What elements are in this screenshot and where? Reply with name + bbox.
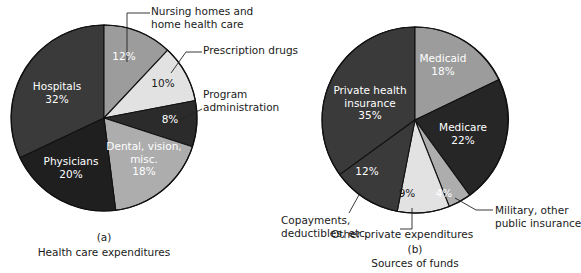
slice-label-other-private-pct: 9%: [399, 187, 416, 200]
panel-label-a: (a): [97, 231, 112, 244]
slice-label-physicians-pct: 20%: [59, 168, 82, 180]
callout-nursing-homes-line1: Nursing homes and: [151, 5, 253, 17]
callout-prescription-drugs: Prescription drugs: [203, 44, 298, 57]
panel-label-b-text: (b): [408, 243, 423, 255]
caption-b-text: Sources of funds: [371, 257, 458, 269]
leader-copayments: [349, 193, 360, 213]
slice-label-military-pct: 4%: [436, 187, 453, 200]
slice-label-nursing-pct: 12%: [112, 50, 135, 62]
slice-label-dental-vision-misc: Dental, vision, misc. 18%: [106, 140, 181, 178]
caption-b: Sources of funds: [371, 257, 458, 270]
slice-label-prescription-pct-text: 10%: [151, 77, 174, 89]
callout-prescription-drugs-text: Prescription drugs: [203, 44, 298, 56]
callout-military-line1: Military, other: [495, 204, 569, 216]
callout-copayments-deductibles: Copayments, deductibles, etc.: [281, 214, 368, 239]
slice-label-medicare-pct: 22%: [451, 134, 474, 146]
slice-label-prescription-pct: 10%: [151, 77, 174, 90]
slice-label-private-health-insurance: Private health insurance 35%: [333, 84, 406, 122]
callout-military-line2: public insurance: [495, 217, 581, 229]
slice-label-copayments-pct: 12%: [355, 165, 378, 178]
slice-label-physicians: Physicians 20%: [44, 155, 99, 180]
callout-program-administration-line1: Program: [203, 88, 247, 100]
slice-label-private-pct: 35%: [358, 109, 381, 121]
caption-a: Health care expenditures: [38, 246, 171, 259]
slice-label-private-line1: Private health: [333, 84, 406, 96]
slice-label-private-line2: insurance: [344, 97, 395, 109]
slice-label-other-private-pct-text: 9%: [399, 187, 416, 199]
caption-a-text: Health care expenditures: [38, 246, 171, 258]
slice-label-dental-pct: 18%: [132, 165, 155, 177]
slice-label-copayments-pct-text: 12%: [355, 165, 378, 177]
callout-program-administration: Program administration: [203, 88, 279, 113]
slice-label-hospitals-name: Hospitals: [33, 80, 81, 92]
callout-copayments-line2: deductibles, etc.: [281, 227, 368, 239]
slice-label-dental-line1: Dental, vision,: [106, 140, 181, 152]
callout-nursing-homes-line2: home health care: [151, 18, 243, 30]
slice-label-nursing-homes-pct: 12%: [112, 50, 135, 63]
panel-label-b: (b): [408, 243, 423, 256]
callout-program-administration-line2: administration: [203, 101, 279, 113]
callout-military-other-public-insurance: Military, other public insurance: [495, 204, 581, 229]
slice-label-hospitals: Hospitals 32%: [33, 80, 81, 105]
slice-label-hospitals-pct: 32%: [45, 93, 68, 105]
panel-label-a-text: (a): [97, 231, 112, 243]
slice-label-medicaid: Medicaid 18%: [420, 52, 467, 77]
slice-label-program-pct: 8%: [162, 113, 179, 126]
callout-copayments-line1: Copayments,: [281, 214, 350, 226]
slice-label-military-pct-text: 4%: [436, 187, 453, 199]
slice-label-physicians-name: Physicians: [44, 155, 99, 167]
slice-label-medicaid-pct: 18%: [431, 65, 454, 77]
slice-label-medicare-name: Medicare: [439, 121, 487, 133]
slice-label-medicaid-name: Medicaid: [420, 52, 467, 64]
slice-label-dental-line2: misc.: [130, 153, 158, 165]
slice-label-program-pct-text: 8%: [162, 113, 179, 125]
callout-nursing-homes: Nursing homes and home health care: [151, 5, 253, 30]
slice-label-medicare: Medicare 22%: [439, 121, 487, 146]
